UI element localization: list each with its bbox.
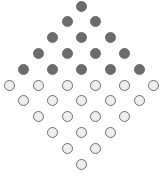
light-circle (119, 111, 130, 122)
light-circle (134, 95, 145, 106)
dark-circle (76, 32, 87, 43)
dark-circle (33, 48, 44, 59)
light-circle (47, 127, 58, 138)
dark-circle (76, 1, 87, 12)
light-circle (62, 80, 73, 91)
light-circle (33, 111, 44, 122)
light-circle (119, 80, 130, 91)
light-circle (90, 80, 101, 91)
light-circle (33, 80, 44, 91)
light-circle (62, 143, 73, 154)
dark-circle (105, 32, 116, 43)
dark-circle (18, 64, 29, 75)
dark-circle (62, 48, 73, 59)
light-circle (76, 159, 87, 170)
light-circle (148, 80, 159, 91)
light-circle (62, 111, 73, 122)
dark-circle (134, 64, 145, 75)
dark-circle (90, 48, 101, 59)
dot-diamond-diagram (0, 0, 163, 176)
light-circle (76, 127, 87, 138)
dark-circle (90, 16, 101, 27)
dark-circle (105, 64, 116, 75)
light-circle (105, 127, 116, 138)
dark-circle (119, 48, 130, 59)
light-circle (90, 111, 101, 122)
dark-circle (47, 64, 58, 75)
dark-circle (76, 64, 87, 75)
light-circle (76, 95, 87, 106)
light-circle (47, 95, 58, 106)
light-circle (18, 95, 29, 106)
dark-circle (62, 16, 73, 27)
dark-circle (47, 32, 58, 43)
light-circle (105, 95, 116, 106)
light-circle (4, 80, 15, 91)
light-circle (90, 143, 101, 154)
